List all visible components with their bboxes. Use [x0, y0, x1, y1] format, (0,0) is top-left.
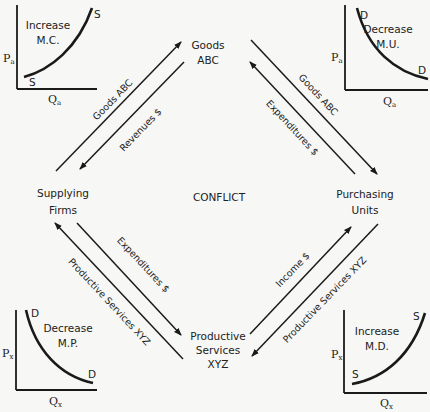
curve-label-top: S: [94, 8, 101, 20]
flow-label-top-left-outer: Goods ABC: [90, 77, 135, 123]
graph-title-line2: M.P.: [58, 337, 78, 349]
y-axis-label: Px: [331, 348, 342, 362]
graph-title-line2: M.C.: [36, 34, 59, 46]
x-axis-label: Qx: [380, 397, 393, 411]
node-purchasing-units-line1: Purchasing: [336, 188, 393, 200]
graph-title-line1: Increase: [26, 19, 70, 31]
node-goods-line2: ABC: [197, 54, 219, 66]
curve-label-top: S: [413, 310, 420, 322]
curve-label-bottom: D: [418, 64, 426, 76]
node-supplying-firms-line2: Firms: [49, 204, 77, 216]
graph-title-line2: M.D.: [365, 340, 389, 352]
curve-label-bottom: D: [88, 368, 96, 380]
node-supplying-firms-line1: Supplying: [37, 187, 89, 199]
flow-label-bottom-right-outer: Income $: [273, 250, 311, 289]
x-axis-label: Qa: [383, 95, 396, 109]
graph-title-line2: M.U.: [376, 38, 399, 50]
graph-title-line1: Increase: [355, 325, 399, 337]
flow-label-top-left-inner: Revenues $: [117, 106, 163, 153]
circular-flow-diagram: S S Increase M.C. Pa Qa D D Decrease M.U…: [0, 0, 430, 412]
curve-label-top: D: [31, 307, 39, 319]
node-productive-services-line3: XYZ: [208, 358, 229, 370]
y-axis-label: Pa: [331, 51, 343, 65]
curve-label-top: D: [360, 9, 368, 21]
flow-label-bottom-left-inner: Expenditures $: [115, 235, 172, 295]
diagram-canvas: S S Increase M.C. Pa Qa D D Decrease M.U…: [0, 0, 430, 412]
flow-label-bottom-left-outer: Productive Services XYZ: [66, 256, 153, 348]
graph-title-line1: Decrease: [43, 322, 92, 334]
graph-bottom-left-demand: D D Decrease M.P. Px Qx: [2, 307, 97, 409]
x-axis-label: Qx: [49, 395, 62, 409]
node-purchasing-units-line2: Units: [352, 204, 379, 216]
node-productive-services-line1: Productive: [190, 330, 245, 342]
graph-title-line1: Decrease: [363, 23, 412, 35]
node-productive-services-line2: Services: [196, 344, 240, 356]
graph-top-left-supply: S S Increase M.C. Pa Qa: [3, 5, 101, 107]
curve-label-bottom: S: [29, 76, 36, 88]
center-label-conflict: CONFLICT: [193, 191, 246, 203]
arrow-goods-to-market: [56, 42, 181, 171]
y-axis-label: Px: [2, 347, 13, 361]
x-axis-label: Qa: [48, 93, 61, 107]
graph-bottom-right-supply: S S Increase M.D. Px Qx: [331, 310, 427, 411]
curve-label-bottom: S: [352, 368, 359, 380]
graph-top-right-demand: D D Decrease M.U. Pa Qa: [331, 5, 428, 109]
y-axis-label: Pa: [3, 52, 15, 66]
node-goods-line1: Goods: [191, 39, 224, 51]
